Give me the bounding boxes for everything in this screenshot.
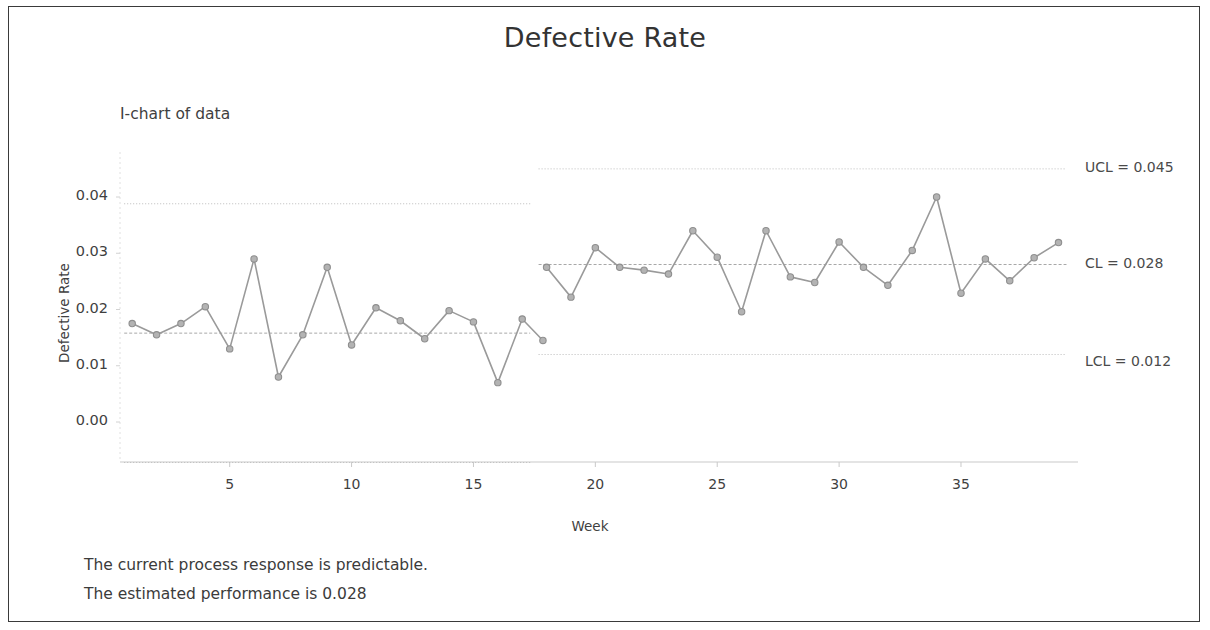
data-point bbox=[958, 290, 964, 296]
data-point bbox=[348, 342, 354, 348]
data-point bbox=[202, 303, 208, 309]
x-tick-label: 25 bbox=[694, 476, 740, 492]
data-point bbox=[470, 319, 476, 325]
data-point bbox=[540, 337, 546, 343]
data-point bbox=[836, 239, 842, 245]
data-point bbox=[251, 256, 257, 262]
data-point bbox=[422, 336, 428, 342]
phase-group-2 bbox=[539, 169, 1067, 355]
ucl-label: UCL = 0.045 bbox=[1085, 159, 1174, 175]
data-point bbox=[300, 332, 306, 338]
data-point bbox=[446, 307, 452, 313]
data-point bbox=[324, 264, 330, 270]
x-tick-label: 30 bbox=[816, 476, 862, 492]
data-point bbox=[519, 316, 525, 322]
status-text-performance: The estimated performance is 0.028 bbox=[84, 585, 367, 603]
data-point bbox=[909, 247, 915, 253]
series-line bbox=[547, 197, 1059, 312]
data-point bbox=[763, 228, 769, 234]
data-point bbox=[665, 271, 671, 277]
status-text-predictability: The current process response is predicta… bbox=[84, 556, 428, 574]
chart-canvas bbox=[0, 0, 1210, 630]
data-point bbox=[787, 274, 793, 280]
y-tick-label: 0.00 bbox=[48, 412, 108, 428]
x-tick-label: 20 bbox=[572, 476, 618, 492]
data-point bbox=[275, 374, 281, 380]
data-point bbox=[226, 346, 232, 352]
x-tick-label: 5 bbox=[207, 476, 253, 492]
data-point bbox=[860, 264, 866, 270]
data-point bbox=[153, 332, 159, 338]
data-point bbox=[1031, 255, 1037, 261]
x-axis-title: Week bbox=[520, 518, 660, 534]
data-point bbox=[738, 309, 744, 315]
data-point bbox=[982, 256, 988, 262]
data-point bbox=[178, 320, 184, 326]
data-point bbox=[690, 228, 696, 234]
y-tick-label: 0.01 bbox=[48, 356, 108, 372]
data-point bbox=[812, 279, 818, 285]
y-tick-label: 0.03 bbox=[48, 243, 108, 259]
lcl-label: LCL = 0.012 bbox=[1085, 353, 1171, 369]
data-point bbox=[714, 254, 720, 260]
data-point bbox=[129, 320, 135, 326]
y-tick-label: 0.04 bbox=[48, 187, 108, 203]
data-point bbox=[885, 282, 891, 288]
data-point bbox=[933, 194, 939, 200]
x-tick-label: 10 bbox=[329, 476, 375, 492]
data-point bbox=[543, 264, 549, 270]
data-point bbox=[1007, 278, 1013, 284]
y-tick-label: 0.02 bbox=[48, 300, 108, 316]
data-point bbox=[397, 318, 403, 324]
phase-group-1 bbox=[124, 204, 546, 463]
x-tick-label: 35 bbox=[938, 476, 984, 492]
plot-layer bbox=[116, 152, 1078, 467]
data-point bbox=[568, 294, 574, 300]
chart-subtitle: I-chart of data bbox=[120, 105, 230, 123]
data-point bbox=[617, 264, 623, 270]
data-point bbox=[495, 379, 501, 385]
data-point bbox=[373, 305, 379, 311]
cl-label: CL = 0.028 bbox=[1085, 255, 1163, 271]
x-tick-label: 15 bbox=[450, 476, 496, 492]
data-point bbox=[641, 267, 647, 273]
data-point bbox=[1055, 239, 1061, 245]
page-title: Defective Rate bbox=[0, 22, 1210, 53]
series-line bbox=[132, 259, 543, 383]
data-point bbox=[592, 244, 598, 250]
